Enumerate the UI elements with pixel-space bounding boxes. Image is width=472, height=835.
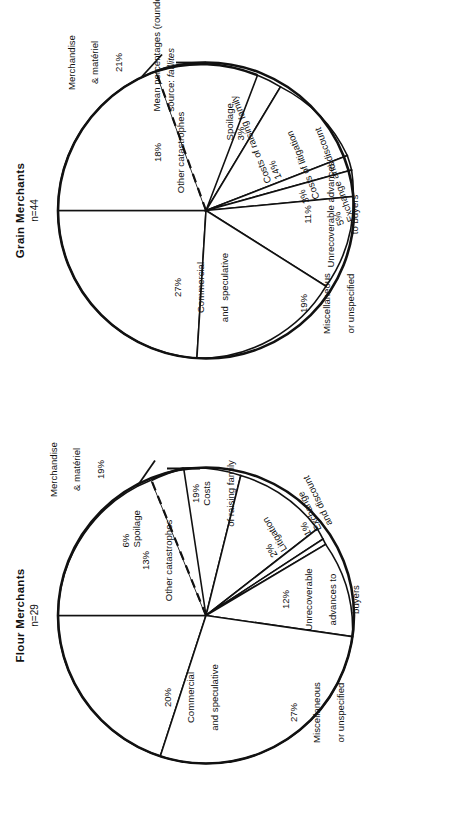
text-merchandise-grain-2: & matériel xyxy=(89,40,100,83)
text-miscellaneous-grain-1: Miscellaneous xyxy=(321,273,332,334)
label-merchandise-flour: Merchandise & matériel 19% xyxy=(36,425,118,529)
chart-title-flour: Flour Merchants xyxy=(14,415,26,815)
text-costs-raising-family-flour-2: of raising family xyxy=(225,460,236,527)
chart-title-grain: Grain Merchants xyxy=(14,10,26,410)
text-other-catastrophes-flour: Other catastrophes xyxy=(163,519,174,601)
label-merchandise-grain: Merchandise & matériel 21% xyxy=(54,18,136,122)
pie-chart-flour-merchants: Flour Merchants n=29 xyxy=(0,415,472,815)
label-unrecoverable-advances-flour: 12% Unrecoverable advances to buyers xyxy=(268,547,373,667)
pct-other-catastrophes-grain: 18% xyxy=(152,142,163,161)
note-source-prefix: source: xyxy=(165,77,176,111)
pie-chart-grain-merchants: Grain Merchants n=44 xyxy=(0,10,472,410)
text-miscellaneous-flour-2: or unspecified xyxy=(335,682,346,742)
text-commercial-flour-1: Commercial xyxy=(185,671,196,722)
text-commercial-grain-2: and speculative xyxy=(219,252,230,321)
figure-stage: Flour Merchants n=29 xyxy=(0,0,472,835)
text-other-catastrophes-grain: Other catastrophes xyxy=(175,111,186,193)
note-mean-percentages: Mean percentages (rounded) xyxy=(150,0,164,111)
text-commercial-grain-1: Commercial xyxy=(195,261,206,312)
text-merchandise-grain-1: Merchandise xyxy=(66,35,77,90)
text-miscellaneous-flour-1: Miscellaneous xyxy=(311,682,322,743)
pct-miscellaneous-flour: 27% xyxy=(288,702,299,721)
pct-unrecoverable-advances-flour: 12% xyxy=(280,589,291,608)
text-merchandise-flour-1: Merchandise xyxy=(48,442,59,497)
label-spoilage-flour: 6% Spoilage xyxy=(108,473,155,563)
text-miscellaneous-grain-2: or unspecified xyxy=(345,273,356,333)
label-costs-raising-family-flour: 19% Costs of raising family xyxy=(178,439,248,563)
label-other-catastrophes-grain: 18% Other catastrophes xyxy=(140,96,199,224)
figure-note: Mean percentages (rounded) source: faill… xyxy=(150,0,179,111)
text-costs-raising-family-flour-1: Costs xyxy=(201,481,212,506)
text-unrecoverable-advances-grain-2: to buyers xyxy=(349,194,360,233)
note-source: source: faillites xyxy=(164,0,178,111)
text-spoilage-flour: Spoilage xyxy=(131,510,142,547)
label-commercial-flour: 20% Commercial and speculative xyxy=(150,635,232,775)
text-unrecoverable-advances-flour-3: buyers xyxy=(350,585,361,614)
pct-spoilage-flour: 6% xyxy=(120,533,131,547)
pct-miscellaneous-grain: 19% xyxy=(298,293,309,312)
pct-merchandise-flour: 19% xyxy=(95,459,106,478)
label-commercial-grain: 27% Commercial and speculative xyxy=(160,220,242,370)
pct-commercial-grain: 27% xyxy=(172,277,183,296)
note-source-value: faillites xyxy=(165,48,176,77)
text-unrecoverable-advances-flour-1: Unrecoverable xyxy=(303,568,314,630)
chart-sample-size-grain: n=44 xyxy=(29,10,40,410)
pct-unrecoverable-advances-grain: 11% xyxy=(302,205,313,224)
label-miscellaneous-grain: 19% Miscellaneous or unspecified xyxy=(286,246,368,376)
text-merchandise-flour-2: & matériel xyxy=(71,447,82,490)
text-unrecoverable-advances-flour-2: advances to xyxy=(327,573,338,625)
label-miscellaneous-flour: 27% Miscellaneous or unspecified xyxy=(276,655,358,785)
pct-commercial-flour: 20% xyxy=(162,687,173,706)
pct-merchandise-grain: 21% xyxy=(113,52,124,71)
text-commercial-flour-2: and speculative xyxy=(209,664,220,731)
pct-costs-raising-family-flour: 19% xyxy=(190,483,201,502)
